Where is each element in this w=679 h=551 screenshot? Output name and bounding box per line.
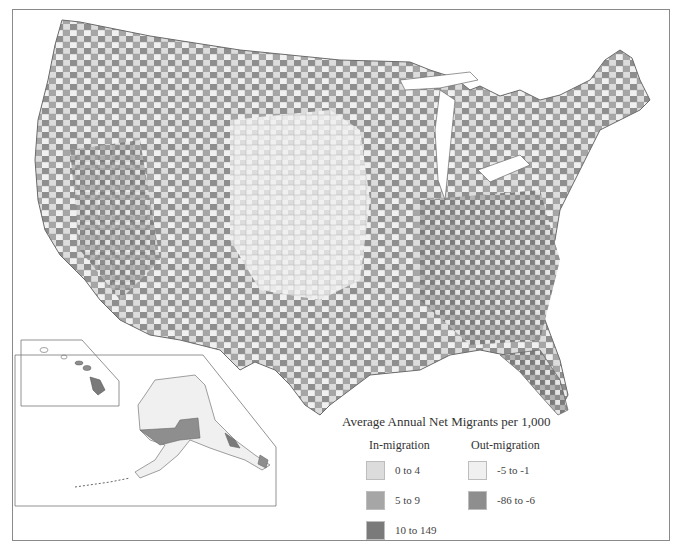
legend-item-in-5-9: 5 to 9	[342, 487, 437, 513]
swatch-very-light-gray	[468, 461, 487, 480]
legend-item-in-0-4: 0 to 4	[342, 457, 437, 483]
legend-label: -86 to -6	[497, 494, 535, 506]
in-migration-column: In-migration 0 to 4 5 to 9 10 to 149	[342, 438, 437, 547]
swatch-dark-gray	[366, 521, 385, 540]
legend-label: 10 to 149	[395, 524, 437, 536]
legend-label: 5 to 9	[395, 494, 420, 506]
hawaii-inset	[21, 340, 119, 406]
legend-label: 0 to 4	[395, 464, 420, 476]
out-migration-column: Out-migration -5 to -1 -86 to -6	[444, 438, 540, 517]
swatch-medium-gray	[366, 491, 385, 510]
legend-title: Average Annual Net Migrants per 1,000	[342, 414, 582, 430]
out-migration-heading: Out-migration	[471, 438, 540, 453]
in-migration-heading: In-migration	[369, 438, 437, 453]
swatch-gray	[468, 491, 487, 510]
legend-item-in-10-149: 10 to 149	[342, 517, 437, 543]
map-legend: Average Annual Net Migrants per 1,000 In…	[342, 414, 582, 430]
legend-item-out-86-6: -86 to -6	[444, 487, 540, 513]
contiguous-us	[35, 20, 650, 415]
legend-label: -5 to -1	[497, 464, 529, 476]
swatch-light-gray	[366, 461, 385, 480]
us-county-migration-map	[0, 0, 679, 551]
legend-item-out-5-1: -5 to -1	[444, 457, 540, 483]
